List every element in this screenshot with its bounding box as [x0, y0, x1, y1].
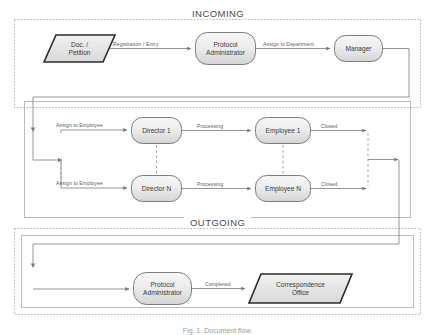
edge-label-completed: Completed	[205, 281, 231, 287]
edge-label-processing-1: Processing	[197, 123, 223, 129]
diagram-canvas: INCOMING OUTGOING Doc. / Petition Protoc…	[0, 0, 435, 335]
section-title-outgoing: OUTGOING	[184, 217, 251, 228]
node-employee-1[interactable]	[255, 117, 311, 144]
edge-label-assign-to-employee-1: Assign to Employee	[56, 122, 103, 128]
node-correspondence-office[interactable]	[249, 274, 352, 304]
edge-label-closed-n: Closed	[321, 181, 337, 187]
edge-label-registration-entry: Registration / Entry	[113, 41, 158, 47]
node-director-1[interactable]	[131, 117, 182, 144]
node-manager[interactable]	[334, 35, 383, 62]
node-director-n[interactable]	[131, 175, 182, 202]
edge-left-rail-lower-arrowhead	[58, 158, 62, 162]
outgoing-container	[15, 229, 421, 315]
edge-label-closed-1: Closed	[321, 123, 337, 129]
edge-label-processing-n: Processing	[197, 181, 223, 187]
edge-outgoing-rail-arrowhead	[31, 264, 35, 269]
edge-label-assign-to-department: Assign to Department	[263, 41, 314, 47]
node-protocol-administrator-out[interactable]	[133, 272, 192, 305]
node-protocol-administrator-in[interactable]	[195, 32, 256, 65]
edge-left-rail-lower	[33, 131, 60, 160]
edge-label-assign-to-employee-n: Assign to Employee	[56, 180, 103, 186]
edge-outgoing-right-rail	[33, 160, 399, 267]
node-employee-n[interactable]	[255, 175, 311, 202]
figure-caption: Fig. 1. Document flow.	[0, 327, 435, 334]
assignment-container	[25, 102, 411, 218]
edge-assign-to-employee-1	[61, 130, 127, 133]
section-title-incoming: INCOMING	[186, 8, 250, 19]
outgoing-inner-container	[22, 236, 414, 308]
node-doc-petition[interactable]	[44, 35, 115, 62]
